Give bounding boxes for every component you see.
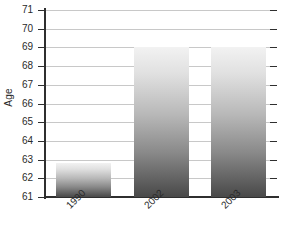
y-tick-mark: [38, 29, 45, 30]
y-tick-label: 67: [5, 80, 33, 90]
y-tick-mark-right: [270, 122, 277, 123]
y-tick-mark-right: [270, 197, 277, 198]
y-tick-label: 71: [5, 5, 33, 15]
y-tick-mark: [38, 104, 45, 105]
bar: [211, 47, 266, 197]
y-tick-label: 64: [5, 136, 33, 146]
y-tick-mark-right: [270, 160, 277, 161]
y-tick-mark: [38, 66, 45, 67]
y-tick-label: 65: [5, 117, 33, 127]
y-tick-mark: [38, 160, 45, 161]
y-tick-mark-right: [270, 47, 277, 48]
y-tick-label: 68: [5, 61, 33, 71]
y-tick-mark-right: [270, 141, 277, 142]
y-tick-mark-right: [270, 29, 277, 30]
y-tick-mark: [38, 122, 45, 123]
y-tick-mark: [38, 141, 45, 142]
y-tick-mark-right: [270, 85, 277, 86]
y-tick-label: 66: [5, 99, 33, 109]
y-tick-label: 62: [5, 173, 33, 183]
gridline: [45, 10, 277, 11]
y-tick-mark: [38, 197, 45, 198]
y-tick-label: 69: [5, 42, 33, 52]
bar-chart: Age 7170696867666564636261 199020022003: [0, 0, 287, 237]
y-tick-label: 63: [5, 155, 33, 165]
y-tick-label: 70: [5, 24, 33, 34]
gridline: [45, 29, 277, 30]
y-tick-mark-right: [270, 104, 277, 105]
y-tick-mark-right: [270, 66, 277, 67]
y-tick-mark-right: [270, 178, 277, 179]
y-tick-mark: [38, 10, 45, 11]
y-tick-mark: [38, 178, 45, 179]
y-tick-mark: [38, 47, 45, 48]
y-tick-mark: [38, 85, 45, 86]
y-tick-label: 61: [5, 192, 33, 202]
y-tick-mark-right: [270, 10, 277, 11]
bar: [134, 47, 189, 197]
